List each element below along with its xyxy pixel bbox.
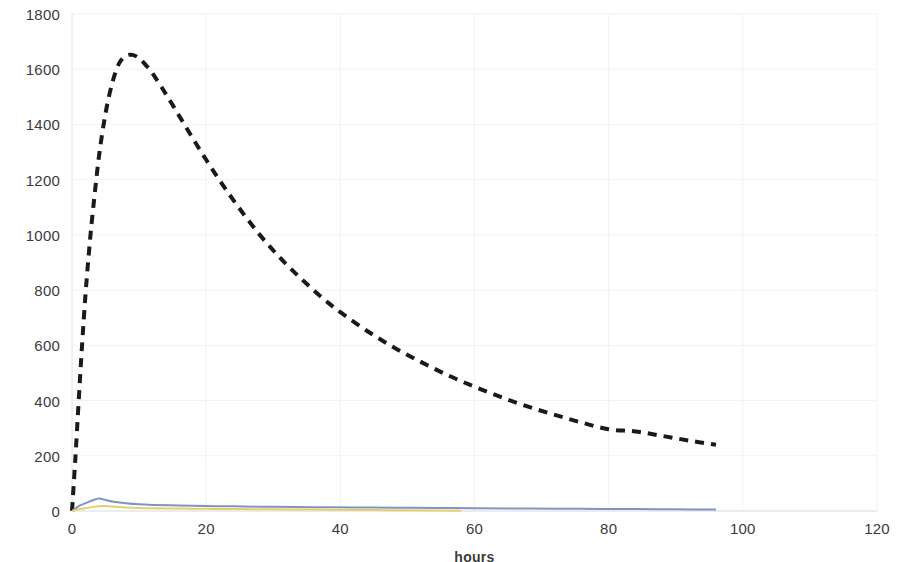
y-axis-tick-label: 400: [34, 392, 60, 409]
x-axis-tick-label: 20: [198, 520, 215, 537]
y-axis-tick-label: 200: [34, 447, 60, 464]
chart-plot-area: [0, 0, 910, 562]
x-axis-tick-label: 80: [600, 520, 617, 537]
vertical-gridlines: [206, 14, 877, 511]
x-axis-tick-label: 0: [68, 520, 77, 537]
x-axis-tick-label: 60: [466, 520, 483, 537]
x-axis-tick-label: 100: [730, 520, 756, 537]
x-axis-title: hours: [454, 549, 494, 562]
y-axis-tick-label: 1800: [26, 6, 60, 23]
chart-container: 180016001400120010008006004002000 020406…: [0, 0, 910, 562]
series-line-dashed-black-series: [72, 55, 716, 511]
y-axis-tick-label: 0: [51, 503, 60, 520]
data-series-paths: [72, 55, 716, 511]
y-axis-tick-label: 1400: [26, 116, 60, 133]
x-axis-tick-label: 40: [332, 520, 349, 537]
x-axis-tick-label: 120: [864, 520, 890, 537]
y-axis-tick-label: 1600: [26, 61, 60, 78]
y-axis-tick-label: 1000: [26, 226, 60, 243]
y-axis-tick-label: 800: [34, 282, 60, 299]
y-axis-tick-label: 600: [34, 337, 60, 354]
y-axis-tick-label: 1200: [26, 171, 60, 188]
